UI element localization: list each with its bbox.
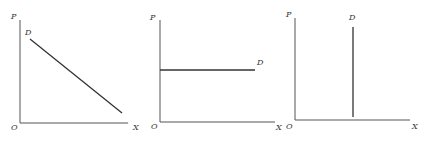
demand-curves-diagram: P D O X P D O X P D O X [0,0,427,141]
origin-label: O [286,122,293,131]
demand-curve [30,39,122,113]
curve-label: D [256,58,264,67]
x-axis-label: X [411,122,418,131]
curve-label: D [348,13,356,22]
x-axis-label: X [132,123,139,132]
panel-vertical: P D O X [285,10,418,131]
y-axis-label: P [149,13,156,22]
y-axis-label: P [10,12,17,21]
curve-label: D [24,28,32,37]
panel-downward-sloping: P D O X [10,12,139,132]
origin-label: O [11,123,18,132]
origin-label: O [151,122,158,131]
y-axis-label: P [285,10,292,19]
panel-horizontal: P D O X [149,13,282,132]
x-axis-label: X [275,123,282,132]
